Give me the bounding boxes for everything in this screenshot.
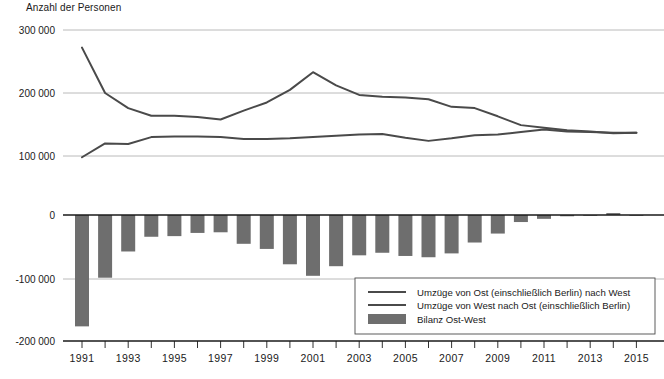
x-axis-ticks: [82, 341, 636, 348]
bar-2003: [352, 215, 366, 255]
ytick-label-100000: 100 000: [19, 151, 56, 162]
bar-2009: [491, 215, 505, 234]
x-tick-label-2009: 2009: [485, 352, 510, 364]
bar-2000: [283, 215, 297, 264]
bar-2006: [422, 215, 436, 257]
upper-panel-series: [82, 48, 636, 158]
x-tick-label-1999: 1999: [254, 352, 279, 364]
x-tick-label-2005: 2005: [393, 352, 418, 364]
upper-panel-ytick-labels: 300 000 200 000 100 000: [19, 25, 56, 162]
bar-1993: [121, 215, 135, 251]
bar-1998: [237, 215, 251, 244]
bar-1994: [144, 215, 158, 237]
x-tick-label-2003: 2003: [347, 352, 372, 364]
x-tick-label-2011: 2011: [532, 352, 556, 364]
x-tick-label-2015: 2015: [624, 352, 649, 364]
bar-1997: [214, 215, 228, 232]
x-tick-label-1991: 1991: [70, 352, 95, 364]
bar-1999: [260, 215, 274, 249]
ytick-label-minus-200000: -200 000: [16, 336, 56, 347]
ytick-label-200000: 200 000: [19, 88, 56, 99]
chart-figure: Anzahl der Personen 300 000 200 000 100 …: [0, 0, 664, 379]
bar-1991: [75, 215, 89, 326]
bar-2004: [375, 215, 389, 253]
x-tick-label-2007: 2007: [439, 352, 464, 364]
x-tick-label-2001: 2001: [301, 352, 326, 364]
lower-panel-ytick-labels: 0 -100 000 -200 000: [16, 210, 56, 347]
legend-label-bilanz-ost-west: Bilanz Ost-West: [417, 314, 486, 325]
bar-2010: [514, 215, 528, 222]
bar-2007: [445, 215, 459, 253]
ytick-label-minus-100000: -100 000: [16, 274, 56, 285]
bar-1992: [98, 215, 112, 278]
x-tick-label-1995: 1995: [162, 352, 187, 364]
bar-2005: [398, 215, 412, 256]
x-tick-label-1997: 1997: [208, 352, 233, 364]
x-tick-label-1993: 1993: [116, 352, 141, 364]
bar-2008: [468, 215, 482, 243]
bar-2002: [329, 215, 343, 266]
x-axis-labels: 1991199319951997199920012003200520072009…: [70, 352, 649, 364]
bar-1995: [167, 215, 181, 236]
legend-marker-swatch-bilanz: [368, 314, 406, 324]
chart-canvas: 300 000 200 000 100 000 0 -100 000 -200 …: [0, 0, 664, 379]
series-line-west-nach-ost: [82, 130, 636, 158]
ytick-label-300000: 300 000: [19, 25, 56, 36]
x-tick-label-2013: 2013: [578, 352, 603, 364]
series-line-ost-nach-west: [82, 48, 636, 134]
legend-label-west-nach-ost: Umzüge von West nach Ost (einschließlich…: [417, 300, 630, 311]
chart-legend: Umzüge von Ost (einschließlich Berlin) n…: [355, 278, 655, 334]
bar-1996: [191, 215, 205, 233]
bar-2001: [306, 215, 320, 276]
legend-label-ost-nach-west: Umzüge von Ost (einschließlich Berlin) n…: [417, 287, 630, 298]
ytick-label-0: 0: [49, 210, 55, 221]
